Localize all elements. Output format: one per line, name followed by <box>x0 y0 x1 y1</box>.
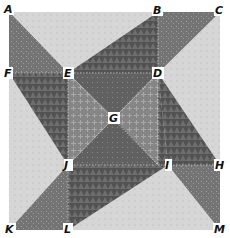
label-A: A <box>3 3 14 16</box>
svg-text:H: H <box>215 159 224 172</box>
label-M: M <box>213 223 227 236</box>
svg-text:K: K <box>5 223 15 236</box>
label-B: B <box>152 4 163 17</box>
label-D: D <box>152 67 164 80</box>
label-K: K <box>4 223 16 236</box>
svg-text:M: M <box>214 223 225 236</box>
label-F: F <box>3 67 13 80</box>
svg-text:L: L <box>64 223 71 236</box>
label-C: C <box>214 4 226 17</box>
svg-text:E: E <box>64 67 72 80</box>
svg-text:D: D <box>153 67 162 80</box>
label-E: E <box>63 67 74 80</box>
label-I: I <box>165 159 172 172</box>
svg-text:B: B <box>153 4 161 17</box>
svg-text:F: F <box>4 67 12 80</box>
svg-text:A: A <box>3 3 13 16</box>
label-L: L <box>63 223 73 236</box>
svg-text:G: G <box>109 112 118 125</box>
label-J: J <box>62 159 73 172</box>
pinwheel-quilt-diagram: A B C F E D G J I H K L M <box>0 0 230 238</box>
svg-text:C: C <box>215 4 223 17</box>
label-G: G <box>108 112 120 125</box>
svg-text:I: I <box>165 159 169 172</box>
label-H: H <box>214 159 226 172</box>
